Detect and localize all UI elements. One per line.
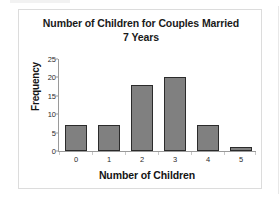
- chart-title-line-2: 7 Years: [29, 31, 253, 45]
- y-tick-label: 5: [38, 128, 56, 137]
- bar-1: [98, 125, 120, 151]
- chart-container: Number of Children for Couples Married 7…: [18, 9, 262, 189]
- bar-5: [230, 147, 252, 152]
- y-tick-mark: [55, 114, 58, 115]
- y-tick-label: 15: [38, 91, 56, 100]
- y-tick-label: 25: [38, 55, 56, 64]
- bar-3: [164, 77, 186, 151]
- scan-artifact-top: [10, 0, 70, 3]
- y-tick-label: 20: [38, 73, 56, 82]
- y-tick-label: 10: [38, 110, 56, 119]
- x-tick-label: 3: [165, 155, 185, 164]
- bar-2: [131, 85, 153, 151]
- plot-area: Frequency 0 5 10 15 20 25: [19, 59, 261, 187]
- x-tick-mark: [224, 152, 225, 155]
- y-tick-label: 0: [38, 147, 56, 156]
- x-tick-mark: [92, 152, 93, 155]
- bar-4: [197, 125, 219, 151]
- y-tick-mark: [55, 77, 58, 78]
- bar-series: [59, 59, 255, 151]
- x-tick-label: 2: [132, 155, 152, 164]
- y-tick-mark: [55, 132, 58, 133]
- x-tick-mark: [191, 152, 192, 155]
- x-tick-mark: [125, 152, 126, 155]
- x-tick-label: 0: [66, 155, 86, 164]
- chart-title: Number of Children for Couples Married 7…: [29, 17, 253, 44]
- y-tick-mark: [55, 59, 58, 60]
- page-edge-line: [278, 6, 279, 194]
- x-axis-label: Number of Children: [39, 169, 255, 181]
- x-tick-mark: [158, 152, 159, 155]
- bar-0: [65, 125, 87, 151]
- x-tick-mark: [255, 152, 256, 155]
- x-tick-label: 5: [231, 155, 251, 164]
- y-tick-mark: [55, 95, 58, 96]
- chart-title-line-1: Number of Children for Couples Married: [29, 17, 253, 31]
- x-tick-mark: [59, 152, 60, 155]
- x-tick-label: 1: [99, 155, 119, 164]
- x-tick-label: 4: [198, 155, 218, 164]
- y-axis-tick-labels: 0 5 10 15 20 25: [38, 59, 56, 151]
- x-axis-line: [58, 151, 256, 152]
